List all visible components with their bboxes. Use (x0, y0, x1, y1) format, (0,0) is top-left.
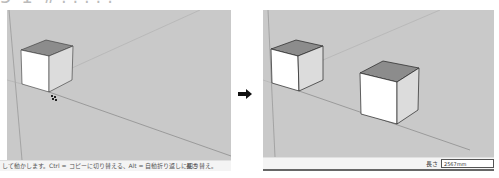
cube-original[interactable] (271, 40, 323, 91)
length-label: 長さ (186, 161, 198, 171)
viewport-after[interactable] (263, 10, 494, 157)
page-heading-cropped: 5 1 #????? (0, 0, 260, 6)
cube-copy[interactable] (360, 61, 419, 124)
viewport-before[interactable] (7, 10, 231, 160)
length-value-input[interactable]: 2567mm (441, 159, 494, 168)
arrow-right-icon (238, 84, 252, 103)
move-cursor-icon (51, 95, 57, 101)
model-scene-before (7, 10, 231, 160)
status-bar-after: 長さ 2567mm (263, 157, 494, 171)
status-bar-before: して動かします。Ctrl = コピーに切り替える、Alt = 自動折り返しに切り… (0, 160, 231, 171)
length-label: 長さ (426, 159, 438, 169)
cube[interactable] (21, 40, 73, 92)
model-scene-after (263, 10, 494, 157)
